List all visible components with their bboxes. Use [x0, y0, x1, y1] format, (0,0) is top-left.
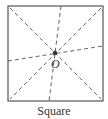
figure-caption: Square	[0, 104, 108, 118]
center-point	[53, 51, 57, 55]
center-label: O	[51, 58, 60, 70]
square-symmetry-diagram: O Square	[0, 0, 108, 119]
